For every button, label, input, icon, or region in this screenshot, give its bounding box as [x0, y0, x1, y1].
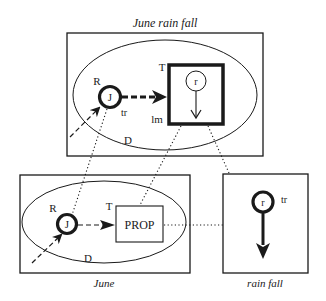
dotted-line-entity [72, 109, 107, 215]
bottom-role-label: R [49, 202, 57, 214]
bottom-ellipse-label: D [84, 252, 92, 264]
top-incoming-arrow [70, 108, 99, 137]
top-panel: June rain fall D J R tr T lm r [67, 16, 263, 156]
top-trace-label: tr [121, 107, 128, 118]
bottom-left-panel: D J R PROP T June [20, 175, 190, 289]
diagram-canvas: June rain fall D J R tr T lm r D [0, 0, 326, 301]
dotted-line-prop [140, 126, 181, 205]
top-ellipse-label: D [124, 134, 132, 146]
bottom-right-panel: r tr rain fall [223, 174, 308, 289]
rainfall-trace-label: tr [281, 194, 288, 205]
top-region-top-label: T [159, 61, 166, 73]
rainfall-arrowhead-icon [256, 243, 270, 259]
bottom-incoming-arrow [32, 235, 61, 263]
bottom-right-frame [223, 174, 308, 273]
dotted-line-rainfall [208, 126, 229, 173]
bottom-right-title: rain fall [247, 277, 283, 289]
prop-top-label: T [106, 200, 113, 212]
bottom-entity-label: J [65, 218, 70, 230]
bottom-left-title: June [94, 277, 115, 289]
top-panel-frame [67, 33, 263, 156]
top-panel-title: June rain fall [133, 16, 198, 30]
top-role-label: R [93, 75, 101, 87]
top-entity-label: J [108, 91, 113, 103]
top-region-bottom-label: lm [151, 113, 163, 125]
prop-label: PROP [124, 218, 154, 232]
